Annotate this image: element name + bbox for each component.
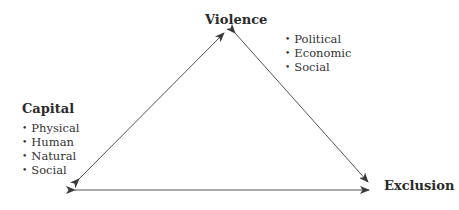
- violence-item: Social: [285, 61, 351, 75]
- capital-item: Natural: [22, 150, 80, 164]
- node-capital-title: Capital: [22, 101, 74, 116]
- capital-item: Physical: [22, 122, 80, 136]
- edge-capital-violence: [79, 33, 224, 179]
- violence-item: Economic: [285, 47, 351, 61]
- node-violence-title: Violence: [205, 12, 267, 27]
- violence-items-list: Political Economic Social: [285, 33, 351, 75]
- capital-item: Human: [22, 136, 80, 150]
- node-exclusion-title: Exclusion: [384, 178, 454, 193]
- capital-item: Social: [22, 164, 80, 178]
- capital-items-list: Physical Human Natural Social: [22, 122, 80, 178]
- violence-item: Political: [285, 33, 351, 47]
